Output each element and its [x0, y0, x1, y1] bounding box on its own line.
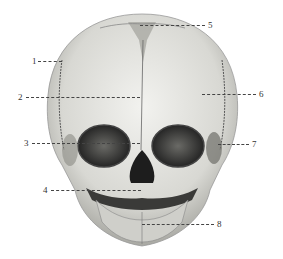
- label-8: 8: [217, 219, 222, 229]
- label-3: 3: [24, 138, 29, 148]
- leader-line-6: [202, 94, 256, 95]
- label-1: 1: [32, 56, 37, 66]
- leader-line-8: [142, 224, 214, 225]
- leader-line-1: [38, 61, 62, 62]
- label-5: 5: [208, 20, 213, 30]
- leader-line-3: [32, 143, 140, 144]
- label-4: 4: [43, 185, 48, 195]
- skull-illustration: [0, 0, 283, 259]
- label-7: 7: [252, 139, 257, 149]
- skull-figure: 1 2 3 4 5 6 7 8: [0, 0, 283, 259]
- label-2: 2: [18, 92, 23, 102]
- leader-line-4: [51, 190, 141, 191]
- label-6: 6: [259, 89, 264, 99]
- leader-line-7: [218, 144, 249, 145]
- leader-line-5: [140, 25, 205, 26]
- leader-line-2: [26, 97, 140, 98]
